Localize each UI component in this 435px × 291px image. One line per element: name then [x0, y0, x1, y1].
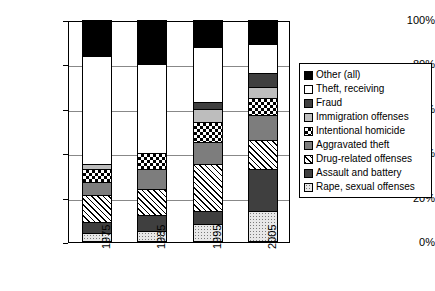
- bar-segment: [193, 20, 223, 47]
- bar-segment: [193, 102, 223, 109]
- bar-segment: [82, 56, 112, 165]
- legend-item-label: Other (all): [316, 70, 360, 80]
- legend-item-label: Immigration offenses: [316, 112, 409, 122]
- bar-segment: [193, 122, 223, 142]
- bar-segment: [137, 153, 167, 169]
- legend-item: Rape, sexual offenses: [304, 180, 428, 194]
- bar-segment: [193, 164, 223, 211]
- y-axis-tick-mark: [63, 243, 68, 244]
- legend-item-label: Theft, receiving: [316, 84, 384, 94]
- bar-segment: [248, 87, 278, 98]
- legend-swatch-icon: [304, 71, 313, 80]
- legend-swatch-icon: [304, 155, 313, 164]
- x-axis-tick-label: 1985: [156, 225, 167, 249]
- legend-item: Immigration offenses: [304, 110, 428, 124]
- bar-segment: [193, 109, 223, 122]
- bar-segment: [248, 115, 278, 139]
- bar-segment: [193, 47, 223, 103]
- legend-item-label: Drug-related offenses: [316, 154, 412, 164]
- legend-swatch-icon: [304, 183, 313, 192]
- y-axis-tick-label: 0%: [379, 237, 435, 248]
- legend-item: Drug-related offenses: [304, 152, 428, 166]
- legend-item-label: Aggravated theft: [316, 140, 389, 150]
- bar-segment: [193, 142, 223, 164]
- legend-swatch-icon: [304, 127, 313, 136]
- legend-swatch-icon: [304, 141, 313, 150]
- bar-segment: [137, 64, 167, 153]
- y-axis-tick-label: 100%: [379, 15, 435, 26]
- bar-segment: [137, 169, 167, 189]
- legend-item-label: Assault and battery: [316, 168, 402, 178]
- bar-segment: [248, 44, 278, 73]
- x-axis-tick-label: 1975: [101, 225, 112, 249]
- legend-item: Assault and battery: [304, 166, 428, 180]
- bar-segment: [137, 20, 167, 64]
- legend-item: Intentional homicide: [304, 124, 428, 138]
- bar-segment: [248, 169, 278, 211]
- legend-item: Other (all): [304, 68, 428, 82]
- plot-area: [68, 21, 290, 243]
- legend-swatch-icon: [304, 169, 313, 178]
- bar-segment: [137, 189, 167, 216]
- bar-2005: [248, 20, 278, 242]
- bar-1995: [193, 20, 223, 242]
- legend-item-label: Fraud: [316, 98, 342, 108]
- legend-item: Fraud: [304, 96, 428, 110]
- bar-segment: [82, 20, 112, 56]
- bar-segment: [248, 98, 278, 116]
- bar-segment: [82, 169, 112, 182]
- bar-segment: [193, 211, 223, 224]
- legend-item: Aggravated theft: [304, 138, 428, 152]
- legend-swatch-icon: [304, 99, 313, 108]
- bar-1975: [82, 20, 112, 242]
- bar-segment: [82, 164, 112, 168]
- legend-item-label: Rape, sexual offenses: [316, 182, 415, 192]
- legend-swatch-icon: [304, 85, 313, 94]
- x-axis-tick-label: 1995: [212, 225, 223, 249]
- bar-segment: [248, 20, 278, 44]
- chart-legend: Other (all)Theft, receivingFraudImmigrat…: [299, 63, 432, 198]
- bar-segment: [248, 140, 278, 169]
- bar-1985: [137, 20, 167, 242]
- bar-segment: [82, 195, 112, 222]
- bar-segment: [82, 182, 112, 195]
- legend-item-label: Intentional homicide: [316, 126, 405, 136]
- x-axis-tick-label: 2005: [267, 225, 278, 249]
- stacked-bar-chart: 100%80%60%40%20%0% 1975198519952005 Othe…: [0, 0, 435, 291]
- bar-segment: [248, 73, 278, 86]
- legend-swatch-icon: [304, 113, 313, 122]
- legend-item: Theft, receiving: [304, 82, 428, 96]
